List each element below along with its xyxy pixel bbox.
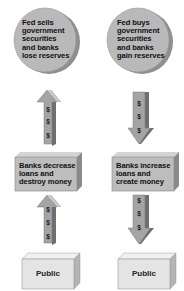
dollar-icon: $ bbox=[43, 233, 53, 240]
left-middle-line: destroy money bbox=[19, 178, 75, 186]
dollar-icon: $ bbox=[43, 206, 53, 213]
dollar-icon: $ bbox=[134, 224, 144, 231]
right-middle-line: create money bbox=[116, 178, 170, 186]
right-middle-box-label: Banks increase loans and create money bbox=[116, 162, 170, 187]
dollar-icon: $ bbox=[43, 132, 53, 139]
dollar-icon: $ bbox=[43, 118, 53, 125]
left-public-label: Public bbox=[22, 269, 74, 278]
left-middle-box-label: Banks decrease loans and destroy money bbox=[19, 162, 75, 187]
dollar-icon: $ bbox=[134, 210, 144, 217]
right-circle-line: gain reserves bbox=[117, 52, 165, 60]
left-circle-label: Fed sells government securities and bank… bbox=[22, 19, 69, 60]
right-public-label: Public bbox=[118, 269, 170, 278]
dollar-icon: $ bbox=[134, 197, 144, 204]
left-circle-line: lose reserves bbox=[22, 52, 69, 60]
dollar-icon: $ bbox=[134, 100, 144, 107]
right-circle-label: Fed buys government securities and banks… bbox=[117, 19, 165, 60]
dollar-icon: $ bbox=[43, 219, 53, 226]
dollar-icon: $ bbox=[134, 113, 144, 120]
dollar-icon: $ bbox=[134, 127, 144, 134]
dollar-icon: $ bbox=[43, 106, 53, 113]
